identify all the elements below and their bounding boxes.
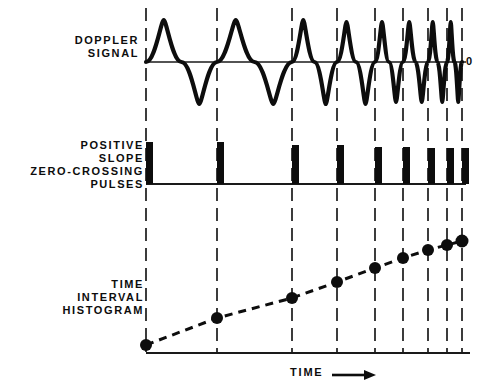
doppler-signal-label: DOPPLER SIGNAL	[75, 34, 139, 60]
pulse-bar	[292, 145, 299, 184]
pulses-label-line2: SLOPE	[30, 152, 144, 165]
doppler-signal-label-line2: SIGNAL	[75, 47, 139, 60]
data-point	[331, 276, 343, 288]
data-point	[441, 239, 453, 251]
data-point	[369, 262, 381, 274]
pulses-label-line4: PULSES	[30, 178, 144, 191]
pulse-bar	[403, 147, 410, 184]
pulse-bar	[447, 148, 454, 184]
pulse-bar	[217, 142, 224, 184]
data-point	[211, 312, 223, 324]
zero-crossing-pulses-label: POSITIVE SLOPE ZERO-CROSSING PULSES	[30, 139, 144, 191]
pulses-label-line3: ZERO-CROSSING	[30, 165, 144, 178]
doppler-zero-crossing-figure	[0, 0, 483, 389]
pulse-bar	[337, 145, 344, 184]
pulse-bar	[146, 142, 153, 184]
histogram-label-line2: INTERVAL	[63, 291, 144, 304]
histogram-label-line3: HISTOGRAM	[63, 304, 144, 317]
pulse-bar	[375, 147, 382, 184]
data-point	[140, 339, 152, 351]
data-point	[456, 235, 469, 248]
data-point	[422, 244, 434, 256]
pulses-label-line1: POSITIVE	[30, 139, 144, 152]
zero-axis-marker: 0	[466, 55, 472, 68]
data-point	[397, 252, 409, 264]
histogram-label-line1: TIME	[63, 278, 144, 291]
time-axis-label: TIME	[290, 366, 323, 379]
time-interval-histogram-label: TIME INTERVAL HISTOGRAM	[63, 278, 144, 317]
data-point	[286, 292, 298, 304]
doppler-signal-label-line1: DOPPLER	[75, 34, 139, 47]
figure-background	[0, 0, 483, 389]
pulse-bar	[462, 148, 469, 184]
pulse-bar	[428, 148, 435, 184]
